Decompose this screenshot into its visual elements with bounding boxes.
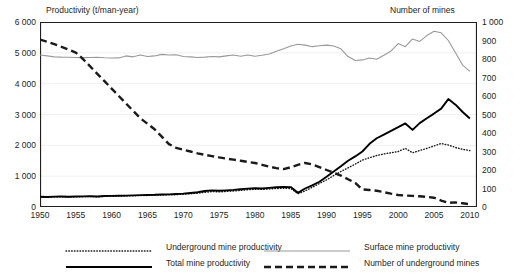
y-tick-label-right: 1 000: [482, 17, 503, 27]
legend-swatch: [258, 262, 356, 272]
y-tick-label-left: 4 000: [15, 79, 36, 89]
y-tick-label-left: 6 000: [15, 17, 36, 27]
x-tick-label: 1960: [102, 210, 121, 220]
y-tick-label-left: 2 000: [15, 140, 36, 150]
y-tick-label-right: 700: [482, 73, 496, 83]
y-tick-label-right: 200: [482, 165, 496, 175]
y-tick-label-right: 800: [482, 54, 496, 64]
y-tick-label-right: 900: [482, 36, 496, 46]
x-tick-label: 1995: [353, 210, 372, 220]
chart-figure: Productivity (t/man-year) Number of mine…: [0, 0, 518, 278]
right-axis-title: Number of mines: [390, 5, 455, 15]
y-tick-label-right: 400: [482, 128, 496, 138]
y-tick-label-right: 300: [482, 147, 496, 157]
x-tick-label: 2010: [460, 210, 479, 220]
legend-label: Total mine productivity: [166, 258, 250, 268]
x-tick-label: 1965: [138, 210, 157, 220]
y-tick-label-left: 1 000: [15, 171, 36, 181]
x-tick-label: 1970: [174, 210, 193, 220]
left-axis-title: Productivity (t/man-year): [46, 5, 139, 15]
y-tick-label-right: 500: [482, 110, 496, 120]
x-tick-label: 2005: [425, 210, 444, 220]
right-axis-tick-labels: 01002003004005006007008009001 000: [482, 0, 518, 278]
series-line: [40, 99, 470, 197]
series-line: [40, 31, 470, 71]
legend-swatch: [258, 246, 356, 256]
x-tick-label: 1950: [31, 210, 50, 220]
y-tick-label-left: 5 000: [15, 48, 36, 58]
x-axis-tick-labels: 1950195519601965197019751980198519901995…: [0, 210, 518, 224]
y-tick-label-right: 100: [482, 184, 496, 194]
plot-area: [40, 22, 477, 207]
y-tick-label-left: 3 000: [15, 110, 36, 120]
legend-swatch: [60, 262, 158, 272]
x-tick-label: 2000: [389, 210, 408, 220]
left-axis-tick-labels: 01 0002 0003 0004 0005 0006 000: [0, 0, 36, 278]
y-tick-label-right: 600: [482, 91, 496, 101]
legend-label: Surface mine productivity: [364, 242, 459, 252]
chart-legend: Underground mine productivityTotal mine …: [0, 240, 518, 278]
series-line: [40, 143, 470, 197]
x-tick-label: 1990: [317, 210, 336, 220]
legend-label: Number of underground mines: [364, 258, 479, 268]
x-tick-label: 1975: [210, 210, 229, 220]
x-tick-label: 1955: [66, 210, 85, 220]
legend-swatch: [60, 246, 158, 256]
x-tick-label: 1980: [245, 210, 264, 220]
plot-svg: [40, 22, 477, 207]
series-line: [40, 40, 470, 205]
x-tick-label: 1985: [281, 210, 300, 220]
